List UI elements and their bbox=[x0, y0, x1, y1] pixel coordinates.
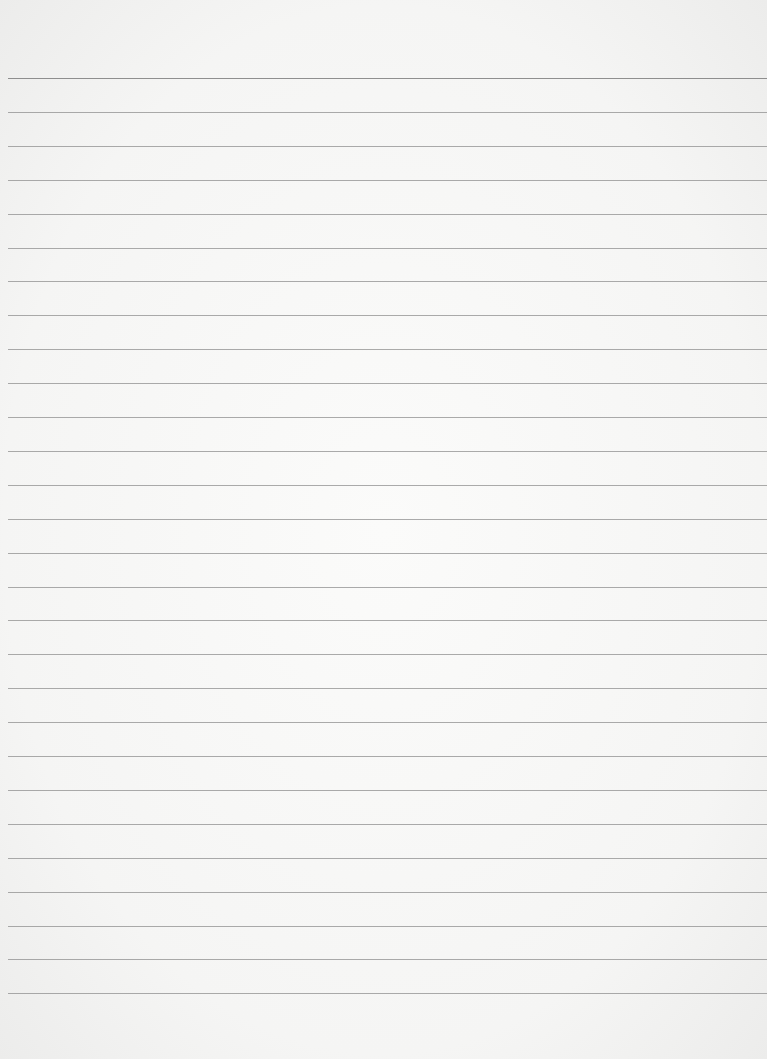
ruled-line bbox=[8, 78, 767, 79]
ruled-line bbox=[8, 756, 767, 757]
ruled-line bbox=[8, 654, 767, 655]
ruled-line bbox=[8, 587, 767, 588]
lined-paper-sheet bbox=[0, 0, 767, 1059]
ruled-line bbox=[8, 620, 767, 621]
ruled-line bbox=[8, 892, 767, 893]
ruled-line bbox=[8, 349, 767, 350]
ruled-line bbox=[8, 722, 767, 723]
ruled-line bbox=[8, 451, 767, 452]
ruled-line bbox=[8, 417, 767, 418]
ruled-line bbox=[8, 993, 767, 994]
ruled-line bbox=[8, 553, 767, 554]
ruled-line bbox=[8, 485, 767, 486]
ruled-line bbox=[8, 383, 767, 384]
ruled-line bbox=[8, 688, 767, 689]
ruled-line bbox=[8, 519, 767, 520]
ruled-line bbox=[8, 959, 767, 960]
ruled-line bbox=[8, 112, 767, 113]
ruled-line bbox=[8, 790, 767, 791]
ruled-line bbox=[8, 315, 767, 316]
ruled-line bbox=[8, 146, 767, 147]
ruled-line bbox=[8, 180, 767, 181]
ruled-line bbox=[8, 824, 767, 825]
ruled-line bbox=[8, 248, 767, 249]
ruled-line bbox=[8, 926, 767, 927]
ruled-line bbox=[8, 214, 767, 215]
ruled-line bbox=[8, 281, 767, 282]
ruled-line bbox=[8, 858, 767, 859]
